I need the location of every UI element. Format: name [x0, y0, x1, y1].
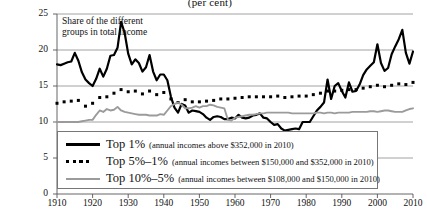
series-top-1-	[57, 22, 413, 131]
x-axis-tick: 1950	[179, 199, 219, 209]
plot-annotation: Share of the different groups in total i…	[62, 16, 158, 37]
y-axis-tick: 25	[22, 9, 48, 19]
x-axis-tick: 1940	[144, 199, 184, 209]
legend-item-label: Top 10%–5%	[106, 171, 174, 186]
y-axis-tick: 20	[22, 45, 48, 55]
legend-item-note: (annual incomes between $108,000 and $15…	[178, 174, 380, 184]
x-axis-tick: 1970	[251, 199, 291, 209]
chart-legend: Top 1% (annual incomes above $352,000 in…	[57, 131, 378, 189]
x-axis-tick: 1910	[37, 199, 77, 209]
y-axis-tick: 5	[22, 153, 48, 163]
dotted-black-line-icon	[66, 156, 100, 167]
legend-item[interactable]: Top 5%–1% (annual incomes between $150,0…	[58, 153, 377, 170]
x-axis-tick: 1930	[108, 199, 148, 209]
legend-item-label: Top 1%	[106, 137, 145, 152]
y-axis-tick: 15	[22, 81, 48, 91]
solid-black-line-icon	[66, 139, 100, 150]
x-axis-tick: 2000	[357, 199, 397, 209]
legend-item-label: Top 5%–1%	[106, 154, 168, 169]
x-axis-tick: 1990	[322, 199, 362, 209]
legend-item[interactable]: Top 1% (annual incomes above $352,000 in…	[58, 136, 377, 153]
legend-item[interactable]: Top 10%–5% (annual incomes between $108,…	[58, 170, 377, 187]
series-top-5-1-	[56, 81, 415, 108]
x-axis-tick: 1920	[73, 199, 113, 209]
x-axis-tick: 1980	[286, 199, 326, 209]
x-axis-tick: 2010	[393, 199, 427, 209]
x-axis-tick: 1960	[215, 199, 255, 209]
legend-item-note: (annual incomes between $150,000 and $35…	[172, 157, 374, 167]
y-axis-tick: 10	[22, 117, 48, 127]
y-axis-tick: 0	[22, 189, 48, 199]
solid-gray-line-icon	[66, 173, 100, 184]
legend-item-note: (annual incomes above $352,000 in 2010)	[149, 140, 294, 150]
data-series-layer	[56, 22, 415, 131]
